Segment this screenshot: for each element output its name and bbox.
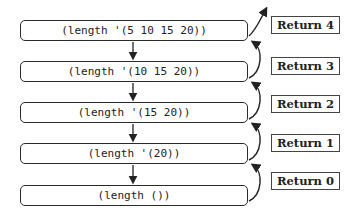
return-box-3: Return 3 (271, 57, 340, 75)
call-label: (length '(5 10 15 20)) (61, 24, 207, 37)
call-box-4: (length '(20)) (20, 143, 248, 164)
call-label: (length '(20)) (88, 147, 181, 160)
return-arrow-3 (249, 42, 260, 78)
return-arrow-2 (249, 83, 260, 119)
return-label: Return 3 (277, 59, 334, 73)
call-box-3: (length '(15 20)) (20, 102, 248, 123)
return-label: Return 4 (277, 18, 334, 32)
call-label: (length ()) (98, 189, 171, 202)
return-arrows (249, 9, 266, 201)
return-arrow-0 (249, 165, 260, 201)
call-box-1: (length '(5 10 15 20)) (20, 20, 248, 41)
return-box-1: Return 1 (271, 134, 340, 152)
return-label: Return 0 (277, 174, 334, 188)
return-box-2: Return 2 (271, 95, 340, 113)
return-box-0: Return 0 (271, 172, 340, 190)
call-box-5: (length ()) (20, 185, 248, 206)
call-box-2: (length '(10 15 20)) (20, 61, 248, 82)
return-label: Return 1 (277, 136, 334, 150)
return-arrow-4 (249, 9, 266, 36)
return-arrow-1 (249, 124, 260, 160)
return-label: Return 2 (277, 97, 334, 111)
return-box-4: Return 4 (271, 16, 340, 34)
call-label: (length '(15 20)) (78, 106, 191, 119)
call-label: (length '(10 15 20)) (68, 65, 200, 78)
